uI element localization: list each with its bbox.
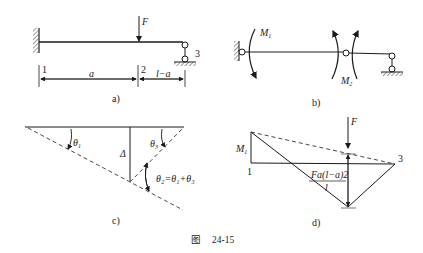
fraction-denominator: l bbox=[325, 182, 328, 193]
delta-label: Δ bbox=[119, 148, 126, 159]
dim-la-label: l−a bbox=[156, 68, 171, 79]
fixed-support-hatch bbox=[234, 41, 239, 61]
theta3-label: θ3 bbox=[150, 138, 158, 150]
beam-right bbox=[349, 53, 391, 54]
theta1-arc bbox=[68, 129, 72, 149]
dim-a-label: a bbox=[89, 68, 94, 79]
panel-a-caption: a) bbox=[112, 93, 120, 105]
node-3-label: 3 bbox=[195, 48, 200, 59]
ground-hatch bbox=[174, 62, 196, 66]
figure-canvas: F 3 1 2 a l−a a) M1 bbox=[0, 0, 423, 253]
deflected-line-1 bbox=[28, 128, 183, 210]
figure-caption-prefix: 图 bbox=[191, 235, 201, 245]
hinge-left bbox=[239, 49, 245, 55]
panel-d-caption: d) bbox=[312, 217, 320, 229]
force-label: F bbox=[141, 16, 149, 27]
ground-hatch bbox=[381, 72, 403, 76]
figure-caption-number: 24-15 bbox=[212, 235, 234, 245]
panel-c-caption: c) bbox=[112, 215, 120, 227]
moment-m2-label: M2 bbox=[340, 75, 352, 87]
panel-c: Δ θ1 θ3 θ₂=θ₁+θ₃ c) bbox=[25, 127, 195, 227]
moment-m2-right-arrow bbox=[352, 31, 358, 79]
theta2-equation: θ₂=θ₁+θ₃ bbox=[156, 173, 195, 184]
panel-d: F M1 1 3 Fa(l−a)2 l d) bbox=[235, 116, 403, 229]
dashed-closing-line bbox=[251, 132, 395, 164]
panel-b-caption: b) bbox=[312, 97, 320, 109]
theta3-arc bbox=[161, 129, 165, 147]
theta1-label: θ1 bbox=[73, 137, 81, 149]
panel-a: F 3 1 2 a l−a a) bbox=[33, 16, 200, 105]
hinge-top bbox=[182, 42, 188, 48]
moment-m2-left-arrow bbox=[332, 31, 338, 79]
node-3-label: 3 bbox=[398, 153, 403, 164]
node-1-label: 1 bbox=[247, 166, 252, 177]
force-label: F bbox=[350, 116, 358, 127]
hinge-bottom bbox=[182, 56, 188, 62]
baseline bbox=[251, 163, 395, 164]
panel-b: M1 M2 b) bbox=[234, 27, 403, 109]
moment-m1-arrow bbox=[249, 29, 256, 78]
hinge-top bbox=[389, 53, 395, 59]
hinge-bottom bbox=[389, 66, 395, 72]
theta2-arc-reverse bbox=[145, 163, 149, 191]
moment-m1-label: M1 bbox=[235, 143, 247, 155]
fraction-numerator: Fa(l−a)2 bbox=[310, 169, 348, 181]
middle-hinge bbox=[343, 50, 349, 56]
moment-m1-label: M1 bbox=[259, 27, 271, 39]
node-1-label: 1 bbox=[42, 64, 47, 75]
fixed-support-hatch bbox=[33, 28, 38, 53]
node-2-label: 2 bbox=[141, 64, 146, 75]
moment-line-right bbox=[348, 164, 395, 207]
